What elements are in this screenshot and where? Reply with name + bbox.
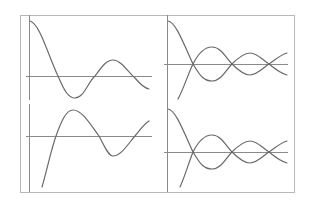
figure-background [0, 0, 312, 203]
bessel-function-figure [0, 0, 312, 203]
